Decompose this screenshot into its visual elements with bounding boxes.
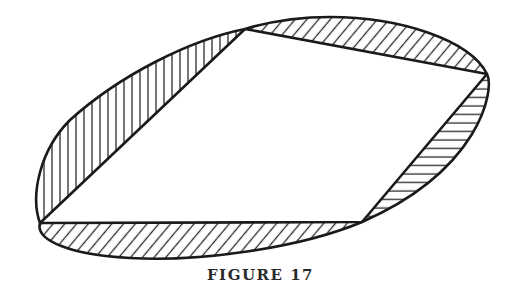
right-segment bbox=[362, 74, 521, 222]
bottom-segment bbox=[0, 222, 521, 300]
figure-17-diagram bbox=[0, 0, 521, 300]
figure-caption: FIGURE 17 bbox=[0, 266, 521, 284]
